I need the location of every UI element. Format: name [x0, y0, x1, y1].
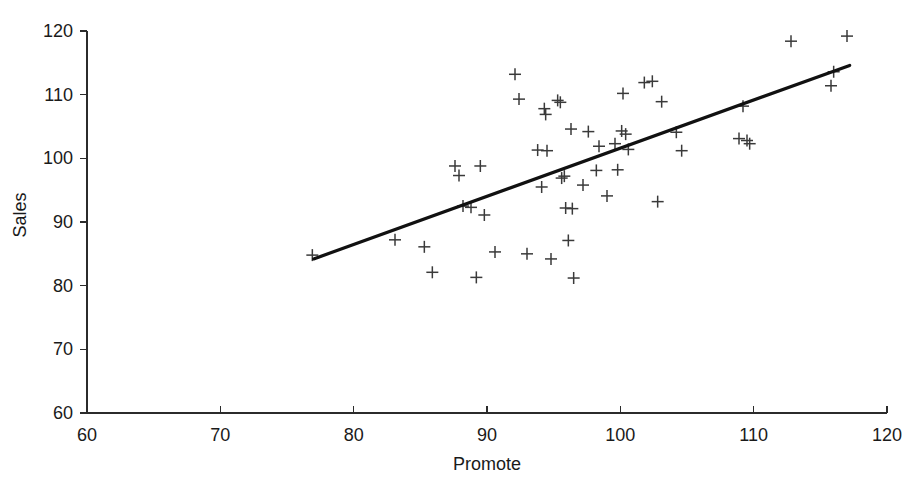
x-axis-title: Promote: [453, 454, 521, 474]
data-point-marker: [478, 209, 490, 221]
data-point-marker: [612, 164, 624, 176]
data-point-marker: [676, 145, 688, 157]
data-point-marker: [489, 246, 501, 258]
data-point-marker: [590, 164, 602, 176]
y-tick-label: 90: [53, 212, 73, 232]
y-tick-label: 120: [43, 21, 73, 41]
y-tick-label: 60: [53, 403, 73, 423]
data-point-marker: [426, 266, 438, 278]
data-point-marker: [582, 126, 594, 138]
regression-line: [314, 65, 850, 259]
x-tick-label: 90: [477, 425, 497, 445]
data-point-marker: [545, 253, 557, 265]
data-point-marker: [565, 123, 577, 135]
data-point-marker: [841, 30, 853, 42]
x-axis-ticks: 60708090100110120: [77, 406, 902, 445]
data-point-marker: [733, 133, 745, 145]
data-point-marker: [389, 234, 401, 246]
data-point-marker: [593, 140, 605, 152]
data-point-marker: [562, 234, 574, 246]
data-point-marker: [744, 138, 756, 150]
data-point-marker: [568, 272, 580, 284]
x-tick-label: 80: [344, 425, 364, 445]
data-point-marker: [418, 241, 430, 253]
x-tick-label: 120: [872, 425, 902, 445]
plot-canvas: 60708090100110120 60708090100110120 Prom…: [0, 0, 913, 479]
axes: [87, 31, 887, 413]
y-tick-label: 110: [44, 85, 73, 105]
data-point-marker: [652, 196, 664, 208]
data-point-marker: [825, 80, 837, 92]
data-point-marker: [656, 96, 668, 108]
data-point-marker: [556, 172, 568, 184]
data-point-marker: [601, 190, 613, 202]
data-point-marker: [646, 75, 658, 87]
x-tick-label: 70: [210, 425, 230, 445]
data-point-marker: [536, 181, 548, 193]
data-point-marker: [470, 271, 482, 283]
y-axis-ticks: 60708090100110120: [43, 21, 87, 423]
data-point-marker: [509, 68, 521, 80]
data-point-marker: [538, 103, 550, 115]
data-point-marker: [541, 145, 553, 157]
data-point-marker: [638, 77, 650, 89]
y-tick-label: 100: [43, 148, 73, 168]
data-point-marker: [558, 170, 570, 182]
x-tick-label: 60: [77, 425, 97, 445]
y-axis-title: Sales: [10, 192, 30, 237]
y-tick-label: 80: [53, 276, 73, 296]
data-point-marker: [540, 108, 552, 120]
data-point-marker: [513, 93, 525, 105]
data-point-marker: [474, 160, 486, 172]
data-point-marker: [552, 94, 564, 106]
data-point-marker: [566, 203, 578, 215]
data-point-marker: [785, 35, 797, 47]
data-point-marker: [554, 96, 566, 108]
x-tick-label: 110: [739, 425, 768, 445]
x-tick-label: 100: [605, 425, 635, 445]
data-point-marker: [617, 87, 629, 99]
data-point-marker: [577, 179, 589, 191]
scatter-chart: 60708090100110120 60708090100110120 Prom…: [0, 0, 913, 479]
data-point-marker: [741, 135, 753, 147]
trend-line: [314, 65, 850, 259]
y-tick-label: 70: [53, 339, 73, 359]
data-point-marker: [521, 248, 533, 260]
data-point-markers: [306, 30, 853, 284]
